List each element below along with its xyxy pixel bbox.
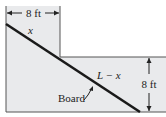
corridor-diagram: 8 ft 8 ft x L − x Board [0, 0, 166, 117]
right-height-label: 8 ft [142, 78, 157, 90]
corridor-region [6, 6, 166, 112]
board-label: Board [58, 92, 85, 104]
top-width-label: 8 ft [26, 7, 41, 19]
lower-segment-label: L − x [96, 69, 121, 81]
upper-segment-label: x [27, 24, 33, 36]
